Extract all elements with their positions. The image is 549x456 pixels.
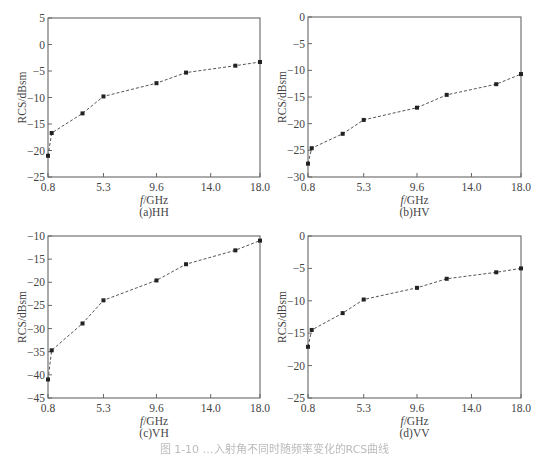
data-point-marker [494, 270, 498, 274]
data-point-marker [415, 286, 419, 290]
y-tick-label: −20 [287, 360, 305, 372]
data-point-marker [341, 311, 345, 315]
x-tick-label: 0.8 [301, 402, 316, 414]
y-tick-label: 0 [299, 230, 305, 242]
x-tick-label: 14.0 [461, 402, 481, 414]
y-axis-title: RCS/dBsm [276, 291, 288, 343]
plot-frame [308, 236, 521, 398]
data-point-marker [306, 345, 310, 349]
data-point-marker [362, 298, 366, 302]
y-tick-label: −5 [293, 262, 305, 274]
x-tick-label: 9.6 [410, 402, 425, 414]
y-tick-label: −10 [287, 295, 305, 307]
x-tick-label: 5.3 [357, 402, 372, 414]
chart-subtitle: (d)VV [399, 427, 430, 440]
y-tick-label: −15 [287, 327, 305, 339]
data-point-marker [310, 328, 314, 332]
data-point-marker [519, 266, 523, 270]
data-point-marker [445, 277, 449, 281]
x-tick-label: 18.0 [511, 402, 531, 414]
figure-caption: 图 1-10 …入射角不同时随频率变化的RCS曲线 [0, 440, 549, 456]
data-series-line [308, 268, 521, 346]
